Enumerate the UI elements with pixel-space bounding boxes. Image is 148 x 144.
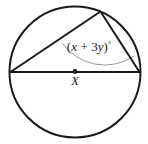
- angle-plus-operator: +: [80, 39, 87, 54]
- geometry-figure: (x+3y)° X: [0, 0, 148, 144]
- inscribed-angle-label: (x+3y)°: [67, 39, 111, 54]
- degree-symbol-icon: °: [108, 40, 111, 49]
- circle-diagram-canvas: (x+3y)° X: [0, 0, 148, 144]
- angle-variable-x: x: [70, 39, 77, 54]
- center-point-label: X: [70, 74, 80, 88]
